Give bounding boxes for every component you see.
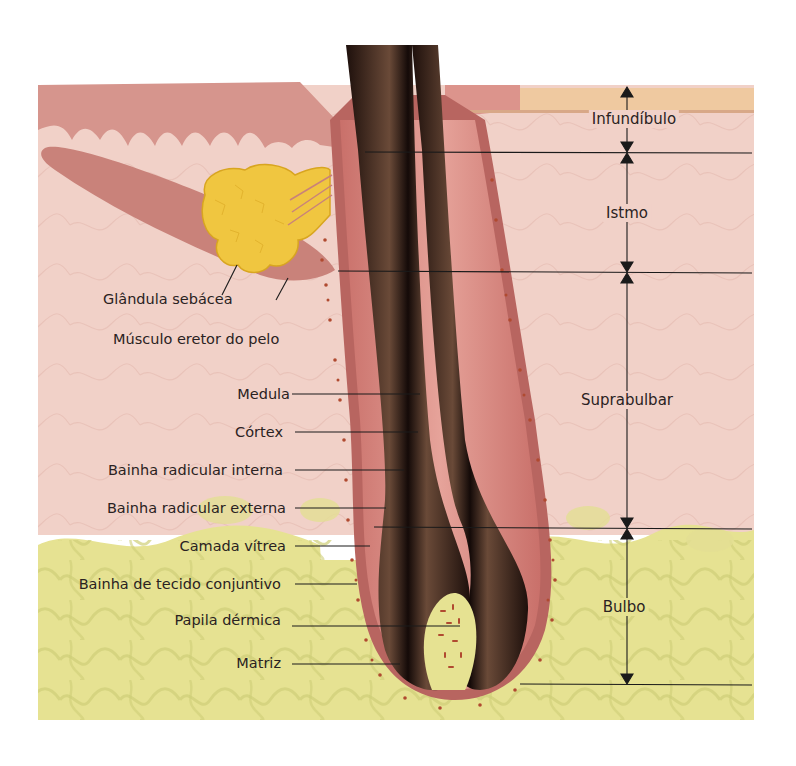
label-cortex: Córtex [235,423,283,441]
zone-label-suprabulbar: Suprabulbar [578,391,676,409]
zone-label-istmo: Istmo [603,204,651,222]
zone-label-bulbo: Bulbo [600,598,649,616]
label-musculo-eretor: Músculo eretor do pelo [113,330,279,348]
label-bainha-radicular-externa: Bainha radicular externa [107,499,286,517]
label-glandula-sebacea: Glândula sebácea [103,290,233,308]
zone-label-infundibulo: Infundíbulo [589,110,679,128]
label-matriz: Matriz [236,654,281,672]
label-bainha-tecido-conjuntivo: Bainha de tecido conjuntivo [79,575,281,593]
label-bainha-radicular-interna: Bainha radicular interna [108,461,283,479]
label-medula: Medula [237,385,290,403]
label-camada-vitrea: Camada vítrea [180,537,286,555]
label-papila-dermica: Papila dérmica [174,611,281,629]
